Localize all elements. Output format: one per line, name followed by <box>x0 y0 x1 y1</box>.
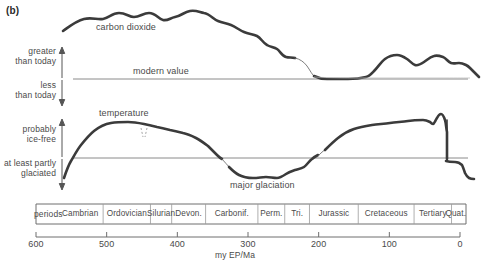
time-tick-label-300: 300 <box>228 239 268 249</box>
time-scale-ticks <box>36 232 460 237</box>
time-tick-label-400: 400 <box>157 239 197 249</box>
time-unit-label: my EP/Ma <box>215 250 255 260</box>
axis-caption-line1: less <box>6 80 56 90</box>
time-tick-label-0: 0 <box>440 239 480 249</box>
axis-caption-line1: probably <box>6 124 56 134</box>
temperature-uncertainty-ticks <box>141 128 147 137</box>
time-tick-label-600: 600 <box>16 239 56 249</box>
axis-arrow-greater-than-today <box>59 47 64 78</box>
axis-caption-line2: than today <box>6 56 56 66</box>
axis-caption-line2: than today <box>6 90 56 100</box>
axis-caption-line2: ice-free <box>6 134 56 144</box>
climate-co2-figure <box>0 0 482 262</box>
axis-caption-greater-than-today: greater than today <box>6 46 56 66</box>
axis-arrow-less-than-today <box>59 80 64 106</box>
temperature-label: temperature <box>99 108 149 118</box>
temperature-curve-quaternary <box>446 161 474 179</box>
axis-caption-at-least-partly-glaciated: at least partly glaciated <box>0 158 56 178</box>
time-tick-label-100: 100 <box>369 239 409 249</box>
carbon-dioxide-curve <box>63 11 295 58</box>
time-tick-label-200: 200 <box>299 239 339 249</box>
time-scale-axis <box>36 232 460 237</box>
axis-arrow-probably-ice-free <box>59 119 64 157</box>
axis-caption-line1: greater <box>6 46 56 56</box>
axis-caption-probably-ice-free: probably ice-free <box>6 124 56 144</box>
axis-caption-line1: at least partly <box>0 158 56 168</box>
carbon-dioxide-curve-uncertain <box>295 58 315 77</box>
axis-caption-line2: glaciated <box>0 168 56 178</box>
period-label-quat[interactable]: Quat. <box>416 209 482 218</box>
panel-label: (b) <box>6 5 19 16</box>
carbon-dioxide-curve-cenozoic <box>314 55 479 79</box>
modern-value-label: modern value <box>133 66 189 76</box>
temperature-curve-mesozoic <box>325 114 447 159</box>
time-tick-label-500: 500 <box>87 239 127 249</box>
axis-caption-less-than-today: less than today <box>6 80 56 100</box>
carbon-dioxide-band-underline <box>314 77 470 78</box>
temperature-curve <box>64 122 222 178</box>
major-glaciation-label: major glaciation <box>230 180 295 190</box>
carbon-dioxide-label: carbon dioxide <box>96 22 156 32</box>
